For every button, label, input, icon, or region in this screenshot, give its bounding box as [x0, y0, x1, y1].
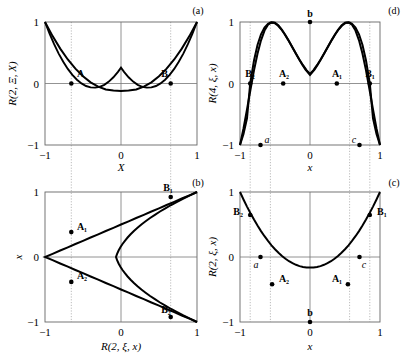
panel-b-ytick-1: 1	[34, 186, 40, 198]
panel-d-xlabel: x	[307, 161, 313, 173]
panel-b: B₁ A₁ A₂ B₂ 1 0 −1 −1 0 1 R(2, ξ, x) x (…	[12, 177, 204, 353]
panel-d-point-B1	[368, 81, 373, 86]
panel-d-point-a	[258, 143, 263, 148]
panel-b-label-B2: B₂	[161, 304, 171, 315]
panel-a-ytick-1: 1	[34, 16, 40, 28]
panel-d-xtick-neg1: −1	[234, 149, 246, 161]
panel-a-ytick-0: 0	[34, 78, 40, 90]
panel-a-ytick-neg1: −1	[27, 139, 39, 151]
panel-c-ytick-neg1: −1	[222, 316, 234, 328]
panel-a-xlabel: X	[117, 161, 126, 173]
panel-b-xtick-1: 1	[194, 326, 200, 338]
panel-d-label-b: b	[307, 8, 313, 19]
panel-b-xtick-0: 0	[118, 326, 124, 338]
panel-c-ylabel: R(2, ξ, x)	[206, 237, 219, 278]
panel-d-xtick-1: 1	[377, 149, 383, 161]
panel-d-label-B2: B₂	[245, 68, 255, 79]
panel-d-label-a: a	[265, 134, 270, 145]
panel-b-point-A2	[69, 280, 74, 285]
panel-b-xtick-neg1: −1	[39, 326, 51, 338]
panel-d-ytick-0: 0	[229, 78, 235, 90]
panel-d-point-c	[357, 143, 362, 148]
panel-c-point-A1	[346, 282, 351, 287]
panel-d-ylabel: R(4, ξ, x)	[206, 63, 219, 104]
panel-a-label-B: B	[161, 68, 168, 79]
panel-c-ytick-1: 1	[229, 186, 235, 198]
panel-d-point-B2	[248, 81, 253, 86]
panel-d-tag: (d)	[388, 5, 400, 17]
panel-a: A B 1 0 −1 −1 0 1 X R(2, Ξ, X) (a)	[6, 5, 204, 173]
panel-c-point-B1	[368, 213, 373, 218]
panel-d-label-A2: A₂	[279, 68, 289, 79]
panel-d: B₂ a A₂ b A₁ c B₁ 1 0 −1 −1 0 1 x R(4, ξ…	[206, 5, 400, 173]
panel-b-xlabel: R(2, ξ, x)	[100, 340, 141, 353]
panel-a-xtick-neg1: −1	[39, 149, 51, 161]
panel-c-point-B2	[248, 213, 253, 218]
panel-a-xtick-0: 0	[118, 149, 124, 161]
panel-a-label-A: A	[77, 68, 85, 79]
panel-c-tag: (c)	[388, 177, 399, 189]
panel-c-point-b	[308, 320, 313, 325]
panel-b-tag: (b)	[192, 177, 204, 189]
panel-b-point-A1	[69, 230, 74, 235]
panel-b-label-A2: A₂	[77, 270, 87, 281]
panel-d-xtick-0: 0	[307, 149, 313, 161]
panel-c-label-c: c	[362, 259, 367, 270]
panel-d-ytick-neg1: −1	[222, 139, 234, 151]
panel-b-label-B1: B₁	[163, 182, 173, 193]
panel-c-label-A2: A₂	[279, 273, 289, 284]
panel-c-xtick-1: 1	[377, 326, 383, 338]
panel-b-ylabel: x	[12, 254, 24, 260]
figure-svg: A B 1 0 −1 −1 0 1 X R(2, Ξ, X) (a) B₂ a …	[0, 0, 415, 357]
panel-c-xtick-neg1: −1	[234, 326, 246, 338]
panel-c-point-A2	[270, 282, 275, 287]
panel-c-label-B1: B₁	[377, 206, 387, 217]
panel-c-xlabel: x	[307, 340, 313, 352]
panel-c-label-B2: B₂	[233, 206, 243, 217]
panel-c: B₂ a A₂ b A₁ c B₁ 1 0 −1 −1 0 1 x R(2, ξ…	[206, 177, 400, 352]
panel-b-point-B2	[168, 315, 173, 320]
panel-b-ytick-0: 0	[34, 251, 40, 263]
panel-d-point-b	[308, 20, 313, 25]
panel-c-label-A1: A₁	[332, 273, 342, 284]
panel-c-point-a	[258, 255, 263, 260]
panel-c-label-a: a	[254, 259, 259, 270]
panel-d-point-A2	[281, 81, 286, 86]
panel-c-label-b: b	[307, 307, 313, 318]
panel-a-tag: (a)	[192, 5, 203, 17]
panel-a-xtick-1: 1	[194, 149, 200, 161]
panel-a-ylabel: R(2, Ξ, X)	[6, 61, 19, 107]
panel-c-xtick-0: 0	[307, 326, 313, 338]
figure-container: A B 1 0 −1 −1 0 1 X R(2, Ξ, X) (a) B₂ a …	[0, 0, 415, 357]
panel-d-label-A1: A₁	[332, 68, 342, 79]
panel-d-ytick-1: 1	[229, 16, 235, 28]
guide-lines	[71, 22, 370, 322]
panel-d-point-A1	[335, 81, 340, 86]
panel-b-label-A1: A₁	[77, 221, 87, 232]
panel-d-label-c: c	[352, 134, 357, 145]
panel-c-ytick-0: 0	[229, 251, 235, 263]
panel-d-label-B1: B₁	[365, 68, 375, 79]
panel-b-point-B1	[168, 195, 173, 200]
panel-a-point-A	[69, 81, 74, 86]
panel-a-point-B	[168, 81, 173, 86]
panel-b-ytick-neg1: −1	[27, 316, 39, 328]
